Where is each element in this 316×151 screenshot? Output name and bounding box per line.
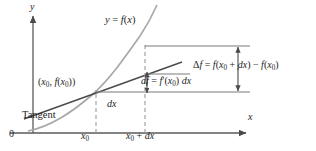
differentials-figure: y x 0 y = f(x) (x0, f(x0)) Tangent dx df…: [0, 0, 316, 151]
x-axis-label: x: [248, 112, 252, 122]
dx-label: dx: [107, 99, 116, 109]
x-tick-x0: x0: [81, 131, 89, 143]
y-axis-label: y: [30, 2, 34, 12]
df-label: df = f′(x0) dx: [141, 76, 191, 88]
x-tick-x0-plus-dx: x0 + dx: [126, 131, 154, 143]
origin-label: 0: [9, 129, 14, 139]
delta-f-label: Δf = f(x0 + dx) − f(x0): [193, 60, 279, 72]
point-label: (x0, f(x0)): [38, 77, 75, 89]
tangent-label: Tangent: [22, 110, 56, 121]
curve-label: y = f(x): [105, 15, 135, 26]
